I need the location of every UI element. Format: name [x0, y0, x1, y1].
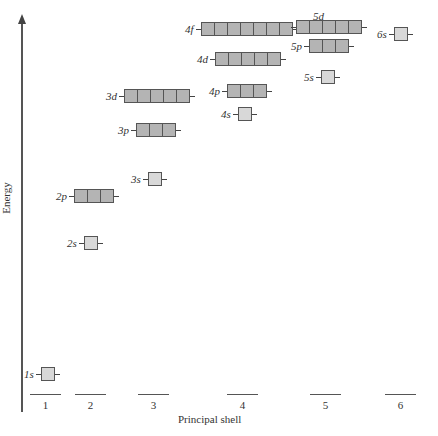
orbital-label: 1s — [24, 368, 34, 380]
orbital-5p: 5p — [291, 39, 354, 53]
orbital-5s: 5s — [304, 70, 340, 84]
orbital-label: 4p — [209, 85, 220, 97]
shell-3: 3 — [138, 394, 169, 414]
orbital-4p: 4p — [209, 84, 272, 98]
orbital-4f: 4f — [185, 22, 298, 36]
orbital-label: 3p — [118, 124, 129, 136]
orbital-3s: 3s — [131, 172, 167, 186]
orbital-4s: 4s — [221, 107, 257, 121]
orbital-label: 3s — [131, 173, 141, 185]
orbital-3p: 3p — [118, 123, 181, 137]
orbital-label: 2p — [56, 190, 67, 202]
orbital-label: 3d — [106, 90, 117, 102]
orbital-label: 5s — [304, 71, 314, 83]
shell-6: 6 — [385, 394, 416, 414]
shell-2: 2 — [75, 394, 106, 414]
orbital-3d: 3d — [106, 89, 195, 103]
x-axis-label: Principal shell — [178, 413, 241, 425]
arrow-up-icon — [18, 14, 26, 24]
orbital-label: 4f — [185, 23, 194, 35]
energy-axis — [21, 22, 23, 412]
orbital-6s: 6s — [377, 27, 413, 41]
orbital-5d — [291, 20, 367, 34]
orbital-2p: 2p — [56, 189, 119, 203]
orbital-label: 4s — [221, 108, 231, 120]
orbital-label: 4d — [197, 53, 208, 65]
orbital-4d: 4d — [197, 52, 286, 66]
orbital-label: 2s — [67, 237, 77, 249]
orbital-1s: 1s — [24, 367, 60, 381]
orbital-label: 5p — [291, 40, 302, 52]
orbital-label: 6s — [377, 28, 387, 40]
shell-5: 5 — [310, 394, 341, 414]
y-axis-label: Energy — [0, 182, 12, 214]
orbital-2s: 2s — [67, 236, 103, 250]
shell-4: 4 — [227, 394, 258, 414]
shell-1: 1 — [30, 394, 61, 414]
